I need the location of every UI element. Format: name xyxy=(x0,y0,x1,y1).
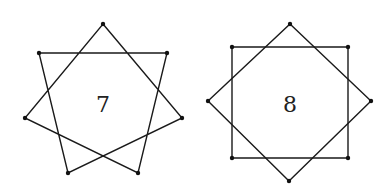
heptagram-label: 7 xyxy=(96,92,110,117)
vertex-dot xyxy=(101,22,105,26)
vertex-dot xyxy=(165,51,169,55)
vertex-dot xyxy=(180,116,184,120)
vertex-dot xyxy=(369,99,373,103)
vertex-dot xyxy=(230,156,234,160)
vertex-dot xyxy=(206,99,210,103)
vertex-dot xyxy=(288,22,292,26)
vertex-dot xyxy=(136,171,140,175)
vertex-dot xyxy=(23,116,27,120)
octagram-label: 8 xyxy=(283,92,297,117)
star-polygons-diagram: 7 8 xyxy=(0,0,391,192)
vertex-dot xyxy=(230,45,234,49)
vertex-dot xyxy=(287,179,291,183)
vertex-dot xyxy=(346,45,350,49)
vertex-dot xyxy=(66,171,70,175)
vertex-dot xyxy=(37,51,41,55)
vertex-dot xyxy=(346,156,350,160)
